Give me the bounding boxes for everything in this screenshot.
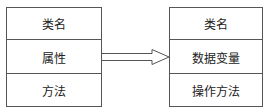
right-class-box: 类名 数据变量 操作方法 <box>169 7 263 107</box>
right-class-name-label: 类名 <box>204 15 228 32</box>
right-data-variables-label: 数据变量 <box>192 49 240 66</box>
right-class-name-row: 类名 <box>170 8 262 39</box>
right-operation-methods-label: 操作方法 <box>192 82 240 99</box>
right-operation-methods-row: 操作方法 <box>170 73 262 107</box>
right-data-variables-row: 数据变量 <box>170 39 262 74</box>
